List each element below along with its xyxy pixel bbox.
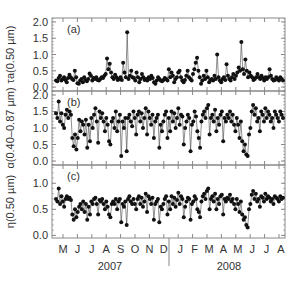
data-point bbox=[192, 67, 196, 71]
y-tick-label: 0.5 bbox=[33, 203, 48, 215]
data-point bbox=[221, 139, 225, 143]
data-point bbox=[57, 186, 61, 190]
data-point bbox=[190, 79, 194, 83]
data-point bbox=[191, 119, 195, 123]
data-point bbox=[117, 119, 121, 123]
data-point bbox=[54, 111, 58, 115]
data-point bbox=[168, 207, 172, 211]
data-point bbox=[178, 202, 182, 206]
data-point bbox=[224, 119, 228, 123]
data-point bbox=[231, 113, 235, 117]
data-point bbox=[141, 205, 145, 209]
data-point bbox=[213, 108, 217, 112]
data-point bbox=[240, 139, 244, 143]
data-point bbox=[176, 106, 180, 110]
data-point bbox=[134, 207, 138, 211]
data-point bbox=[189, 218, 193, 222]
month-label: A bbox=[220, 243, 228, 255]
data-point bbox=[164, 109, 168, 113]
data-point bbox=[58, 119, 62, 123]
data-point bbox=[271, 202, 275, 206]
data-point bbox=[167, 67, 171, 71]
data-point bbox=[198, 146, 202, 150]
data-point bbox=[215, 53, 219, 57]
data-point bbox=[180, 114, 184, 118]
data-point bbox=[64, 113, 68, 117]
month-label: J bbox=[89, 243, 95, 255]
data-point bbox=[202, 109, 206, 113]
data-point bbox=[186, 69, 190, 73]
data-point bbox=[148, 116, 152, 120]
data-point bbox=[161, 119, 165, 123]
month-label: N bbox=[145, 243, 153, 255]
y-tick-label: 0.5 bbox=[33, 139, 48, 151]
data-point bbox=[246, 226, 250, 230]
data-point bbox=[106, 205, 110, 209]
data-point bbox=[100, 111, 104, 115]
month-label: J bbox=[177, 243, 183, 255]
month-label: J bbox=[249, 243, 255, 255]
data-point bbox=[59, 111, 63, 115]
data-point bbox=[127, 194, 131, 198]
month-label: S bbox=[117, 243, 124, 255]
data-point bbox=[122, 126, 126, 130]
data-point bbox=[160, 129, 164, 133]
data-point bbox=[268, 67, 272, 71]
data-point bbox=[151, 76, 155, 80]
data-point bbox=[142, 116, 146, 120]
month-label: A bbox=[277, 243, 285, 255]
data-point bbox=[195, 56, 199, 60]
data-point bbox=[118, 113, 122, 117]
y-tick-label: 1.0 bbox=[33, 49, 48, 61]
data-point bbox=[263, 106, 267, 110]
data-point bbox=[221, 213, 225, 217]
data-point bbox=[76, 210, 80, 214]
data-point bbox=[247, 207, 251, 211]
data-point bbox=[242, 72, 246, 76]
data-point bbox=[281, 196, 285, 200]
data-point bbox=[161, 202, 165, 206]
data-point bbox=[121, 61, 125, 65]
y-axis-label: η(0.50 µm) bbox=[4, 175, 16, 228]
data-point bbox=[217, 202, 221, 206]
data-point bbox=[176, 191, 180, 195]
data-point bbox=[160, 207, 164, 211]
data-point bbox=[238, 136, 242, 140]
month-label: D bbox=[160, 243, 168, 255]
data-point bbox=[115, 207, 119, 211]
data-point bbox=[62, 126, 66, 130]
data-point bbox=[261, 113, 265, 117]
data-point bbox=[130, 124, 134, 128]
y-tick-label: 2.0 bbox=[33, 89, 48, 101]
data-point bbox=[92, 113, 96, 117]
data-point bbox=[119, 154, 123, 158]
data-point bbox=[102, 119, 106, 123]
data-point bbox=[216, 116, 220, 120]
data-point bbox=[159, 123, 163, 127]
data-point bbox=[214, 129, 218, 133]
data-point bbox=[243, 143, 247, 147]
data-point bbox=[70, 213, 74, 217]
data-point bbox=[182, 143, 186, 147]
data-point bbox=[180, 197, 184, 201]
data-point bbox=[93, 196, 97, 200]
data-point bbox=[88, 213, 92, 217]
data-point bbox=[138, 119, 142, 123]
data-point bbox=[145, 133, 149, 137]
data-point bbox=[187, 197, 191, 201]
data-point bbox=[145, 210, 149, 214]
panel-label: (a) bbox=[67, 23, 80, 35]
data-point bbox=[78, 129, 82, 133]
data-point bbox=[108, 62, 112, 66]
data-point bbox=[262, 119, 266, 123]
data-point bbox=[248, 126, 252, 130]
data-point bbox=[250, 193, 254, 197]
y-tick-label: 2.0 bbox=[33, 16, 48, 28]
month-label: A bbox=[103, 243, 111, 255]
data-point bbox=[167, 200, 171, 204]
data-point bbox=[194, 61, 198, 65]
data-point bbox=[73, 69, 77, 73]
data-point bbox=[270, 116, 274, 120]
data-point bbox=[204, 197, 208, 201]
data-point bbox=[115, 129, 119, 133]
